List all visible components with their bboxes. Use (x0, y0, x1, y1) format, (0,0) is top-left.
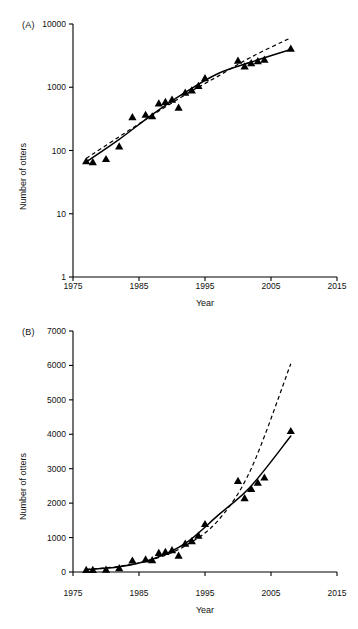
otter-population-figure: (A) Number of otters Year 10000 1000 100… (0, 0, 358, 629)
data-point-marker (161, 548, 169, 555)
panel-b-data-points (82, 427, 295, 573)
panel-a-plot-area (0, 0, 358, 314)
data-point-marker (201, 74, 209, 81)
panel-b-x-ticks (73, 572, 337, 576)
panel-b-plot-area (0, 315, 358, 629)
data-point-marker (128, 556, 136, 563)
panel-b-fitted-trend-curve (86, 436, 291, 570)
data-point-marker (142, 111, 150, 118)
panel-a-fitted-trend-curve (86, 50, 291, 162)
data-point-marker (175, 104, 183, 111)
data-point-marker (142, 555, 150, 562)
panel-a-y-ticks (69, 24, 73, 277)
panel-b-axes (69, 331, 337, 576)
data-point-marker (128, 113, 136, 120)
panel-a-data-points (82, 45, 295, 166)
panel-b: (B) Number of otters Year 7000 6000 5000… (0, 315, 358, 629)
panel-a-x-ticks (73, 277, 337, 281)
panel-a-axes (69, 24, 337, 281)
data-point-marker (161, 98, 169, 105)
data-point-marker (115, 142, 123, 149)
data-point-marker (181, 88, 189, 95)
data-point-marker (287, 427, 295, 434)
panel-b-exponential-model-curve (86, 364, 291, 570)
data-point-marker (234, 477, 242, 484)
panel-b-y-ticks (69, 331, 73, 572)
data-point-marker (287, 45, 295, 52)
data-point-marker (155, 99, 163, 106)
data-point-marker (234, 57, 242, 64)
data-point-marker (201, 520, 209, 527)
data-point-marker (102, 155, 110, 162)
panel-a: (A) Number of otters Year 10000 1000 100… (0, 0, 358, 314)
